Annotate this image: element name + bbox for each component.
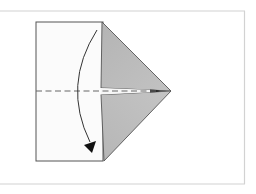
bottom-colored-flap xyxy=(101,91,171,161)
diagram-canvas xyxy=(0,0,256,194)
origami-diagram xyxy=(0,0,256,194)
top-colored-flap xyxy=(101,22,171,91)
